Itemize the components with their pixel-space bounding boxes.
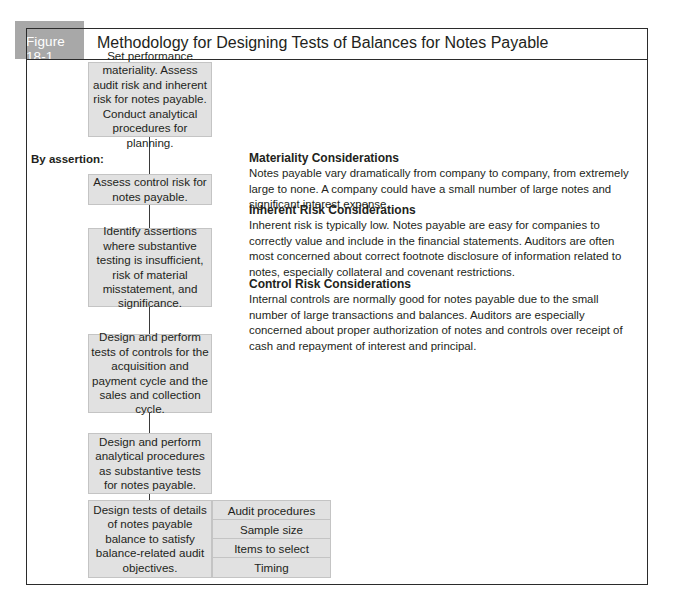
flow-step-tests-of-details: Design tests of details of notes payable… [88,500,212,578]
details-row-timing: Timing [213,558,330,577]
control-risk-considerations: Control Risk Considerations Internal con… [249,277,639,354]
section-body: Inherent risk is typically low. Notes pa… [249,218,639,280]
step-text: Design and perform tests of controls for… [91,330,209,416]
flow-step-identify-assertions: Identify assertions where substantive te… [88,228,212,307]
section-heading: Inherent Risk Considerations [249,203,639,218]
section-body: Internal controls are normally good for … [249,292,639,354]
step-text: Design tests of details of notes payable… [91,503,209,575]
inherent-risk-considerations: Inherent Risk Considerations Inherent ri… [249,203,639,280]
step-text: Set performance materiality. Assess audi… [91,49,209,150]
step-text: Design and perform analytical procedures… [91,435,209,493]
step-text: Assess control risk for notes payable. [91,175,209,204]
flow-step-assess-control-risk: Assess control risk for notes payable. [88,174,212,205]
section-heading: Materiality Considerations [249,151,639,166]
details-decision-table: Audit procedures Sample size Items to se… [212,500,331,578]
details-row-sample-size: Sample size [213,520,330,539]
by-assertion-label: By assertion: [31,153,104,165]
flow-step-analytical-procedures: Design and perform analytical procedures… [88,433,212,494]
details-row-items-to-select: Items to select [213,539,330,558]
step-text: Identify assertions where substantive te… [91,224,209,310]
flow-step-planning: Set performance materiality. Assess audi… [88,62,212,137]
details-row-audit-procedures: Audit procedures [213,501,330,520]
section-heading: Control Risk Considerations [249,277,639,292]
flow-step-tests-of-controls: Design and perform tests of controls for… [88,334,212,413]
